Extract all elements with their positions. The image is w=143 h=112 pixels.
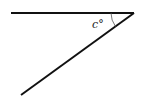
diagonal-ray bbox=[21, 13, 134, 95]
angle-label: c° bbox=[92, 18, 104, 31]
angle-diagram: c° bbox=[0, 0, 143, 112]
angle-arc bbox=[111, 13, 116, 27]
